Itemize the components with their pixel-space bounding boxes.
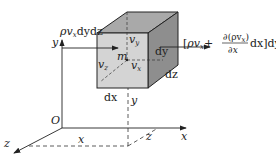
svg-text:dx]dydz: dx]dydz <box>250 37 276 50</box>
svg-text:∂x: ∂x <box>228 45 238 55</box>
x-distance-label: x <box>78 133 85 146</box>
z-distance-label: z <box>145 130 152 143</box>
projection-z-line <box>128 128 158 146</box>
svg-text:∂(ρvx): ∂(ρvx) <box>223 32 249 44</box>
diagram-canvas: O y x z x y z dx dy dz vy vz vx m ρvxdyd… <box>0 0 276 155</box>
z-axis <box>14 128 62 153</box>
point-m-label: m <box>117 50 127 63</box>
y-distance-label: y <box>130 94 138 107</box>
dz-label: dz <box>165 68 178 81</box>
svg-text:[ρvx+: [ρvx+ <box>183 37 213 51</box>
dx-label: dx <box>104 91 118 104</box>
dy-label: dy <box>155 45 169 58</box>
origin-label: O <box>51 114 60 127</box>
inflow-flux-label: ρvxdydz <box>59 25 103 39</box>
x-axis-label: x <box>181 130 188 143</box>
z-axis-label: z <box>3 137 10 150</box>
y-axis-label: y <box>51 36 59 49</box>
control-volume-diagram: O y x z x y z dx dy dz vy vz vx m ρvxdyd… <box>0 0 276 155</box>
outflow-flux-label: [ρvx+ ∂(ρvx) ∂x dx]dydz <box>183 32 276 55</box>
